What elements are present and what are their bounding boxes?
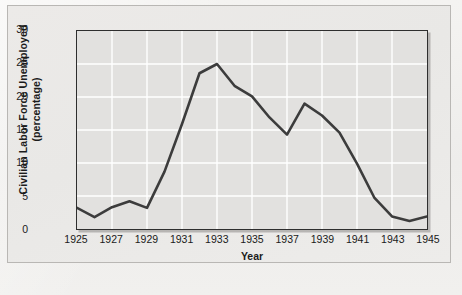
unemployment-line-chart: Civilian Labor Force Unemployed (percent…	[0, 0, 462, 270]
series-polyline	[77, 64, 427, 221]
figure-caption	[14, 282, 444, 293]
y-axis-title: Civilian Labor Force Unemployed (percent…	[17, 10, 42, 210]
plot-area	[76, 30, 428, 230]
y-axis-title-line2: (percentage)	[29, 10, 42, 210]
y-tick-label: 15	[0, 123, 28, 135]
y-tick-label: 30	[0, 23, 28, 35]
y-axis-title-line1: Civilian Labor Force Unemployed	[17, 25, 29, 195]
x-tick-label: 1945	[405, 233, 451, 245]
data-series-line	[77, 31, 427, 229]
y-tick-label: 25	[0, 56, 28, 68]
y-tick-label: 20	[0, 90, 28, 102]
y-tick-label: 5	[0, 190, 28, 202]
y-tick-label: 10	[0, 156, 28, 168]
y-tick-label: 0	[0, 223, 28, 235]
x-axis-title: Year	[76, 250, 428, 262]
figure-root: Civilian Labor Force Unemployed (percent…	[0, 0, 462, 295]
